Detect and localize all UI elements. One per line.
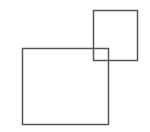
diagram-canvas	[0, 0, 150, 132]
small-square	[94, 11, 138, 61]
